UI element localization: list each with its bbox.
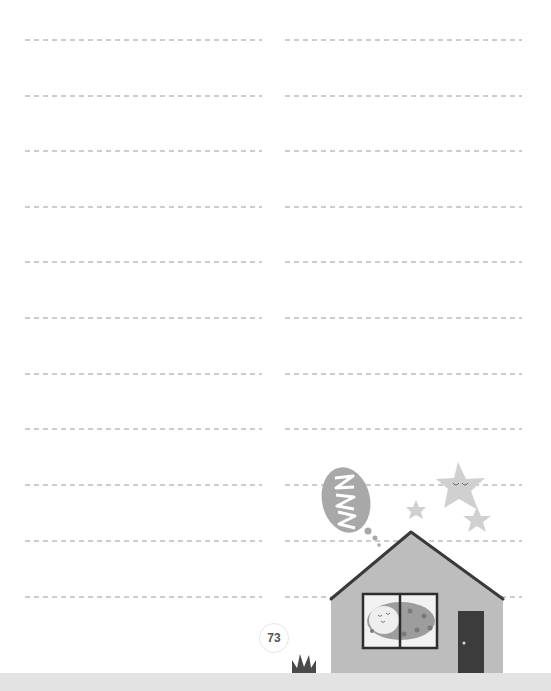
ground-strip	[0, 673, 551, 691]
page-number: 73	[259, 623, 289, 653]
house-icon	[331, 532, 503, 674]
sleeping-house-illustration	[0, 0, 551, 691]
small-star-icon	[406, 500, 426, 519]
grass-icon	[292, 654, 316, 673]
window-icon	[363, 594, 437, 648]
small-star-icon	[463, 507, 491, 532]
door-icon	[458, 611, 484, 674]
zzz-bubble-icon	[316, 463, 381, 547]
sleeping-star-icon	[436, 462, 485, 510]
